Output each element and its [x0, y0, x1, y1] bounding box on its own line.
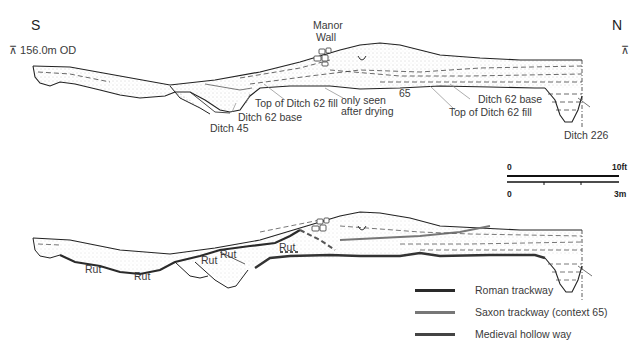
- legend-item-saxon: Saxon trackway (context 65): [415, 306, 607, 318]
- label-ditch226: Ditch 226: [564, 130, 608, 141]
- label-ditch62-base-left: Ditch 62 base: [238, 112, 302, 123]
- label-only-seen: only seen: [341, 95, 386, 106]
- scale-metric-end: 3m: [614, 190, 626, 199]
- legend-item-roman: Roman trackway: [415, 284, 553, 296]
- label-top-ditch62-fill-right: Top of Ditch 62 fill: [449, 107, 532, 118]
- label-wall: Wall: [316, 32, 336, 43]
- medieval-hollow-way-swatch: [415, 333, 455, 336]
- label-top-ditch62-fill-left: Top of Ditch 62 fill: [255, 98, 338, 109]
- label-rut-1: Rut: [85, 264, 101, 275]
- scale-imperial-start: 0: [507, 163, 512, 172]
- saxon-trackway-swatch: [415, 311, 455, 314]
- roman-trackway-swatch: [415, 289, 455, 292]
- label-context-65: 65: [399, 88, 411, 99]
- scale-imperial-end: 10ft: [612, 163, 627, 172]
- label-ditch45: Ditch 45: [210, 123, 249, 134]
- scale-metric-start: 0: [507, 190, 512, 199]
- label-manor: Manor: [313, 20, 343, 31]
- label-after-drying: after drying: [341, 106, 394, 117]
- label-rut-4: Rut: [220, 249, 236, 260]
- label-rut-5: Rut: [279, 242, 295, 253]
- label-ditch62-base-right: Ditch 62 base: [478, 94, 542, 105]
- legend-item-medieval: Medieval hollow way: [415, 328, 571, 340]
- label-rut-3: Rut: [201, 255, 217, 266]
- label-rut-2: Rut: [134, 271, 150, 282]
